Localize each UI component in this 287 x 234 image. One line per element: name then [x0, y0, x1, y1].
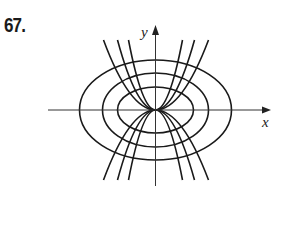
orthogonal-trajectories-figure: x y [0, 0, 287, 234]
axes [48, 32, 265, 186]
parabola-6-lower [156, 110, 209, 180]
parabola-1-upper [104, 40, 156, 110]
parabola-6-upper [156, 40, 209, 110]
parabola-3-upper [129, 40, 156, 110]
x-axis-arrow-icon [262, 107, 271, 114]
parabola-3-lower [129, 110, 156, 180]
y-axis-label: y [139, 24, 148, 40]
y-axis-arrow-icon [152, 25, 159, 35]
parabola-1-lower [104, 110, 156, 180]
x-axis-label: x [261, 114, 269, 130]
parabola-4-upper [156, 40, 183, 110]
parabola-4-lower [156, 110, 183, 180]
